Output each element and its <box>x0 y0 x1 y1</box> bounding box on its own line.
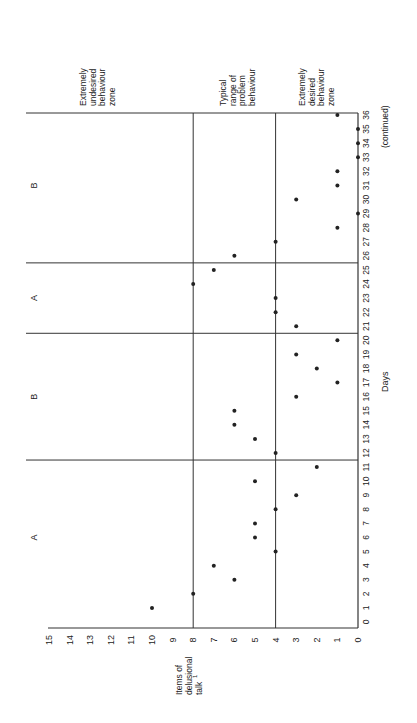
x-tick-label: 20 <box>361 335 371 345</box>
x-tick-label: 34 <box>361 138 371 148</box>
data-point <box>232 423 236 427</box>
delusional-talk-chart: 0123456789101112131415 01234567891011121… <box>0 0 417 723</box>
x-tick-label: 11 <box>361 462 371 471</box>
data-point <box>294 395 298 399</box>
x-tick-label: 31 <box>361 180 371 190</box>
y-axis-title-line1: Items of <box>174 664 184 695</box>
x-tick-label: 35 <box>361 124 371 134</box>
zone-label-undesired: Extremelyundesiredbehaviourzone <box>78 67 117 106</box>
y-tick-label: 3 <box>291 637 301 642</box>
y-axis-ticks: 0123456789101112131415 <box>44 635 363 645</box>
data-point <box>335 381 339 385</box>
data-point <box>315 367 319 371</box>
phase-boundary-lines <box>26 263 358 460</box>
zone-label-desired-line: desired <box>307 78 317 106</box>
data-point <box>253 521 257 525</box>
data-point <box>356 155 360 159</box>
data-point <box>356 212 360 216</box>
x-tick-label: 13 <box>361 434 371 444</box>
x-tick-label: 18 <box>361 364 371 374</box>
phase-label: B <box>29 394 39 400</box>
x-tick-label: 16 <box>361 392 371 402</box>
y-axis-title: Items of delusional talk 1 <box>174 657 204 695</box>
data-point <box>253 536 257 540</box>
x-tick-label: 0 <box>361 619 371 624</box>
x-tick-label: 17 <box>361 378 371 388</box>
data-point <box>335 338 339 342</box>
phase-label: A <box>29 534 39 540</box>
x-axis-title: Days <box>380 371 390 392</box>
data-point <box>356 127 360 131</box>
y-tick-label: 11 <box>126 635 136 644</box>
zone-label-desired-line: behaviour <box>316 68 326 106</box>
data-point <box>191 592 195 596</box>
continued-note: (continued) <box>380 105 390 148</box>
zone-label-typical-line: behaviour <box>247 68 257 106</box>
zone-label-typical-line: problem <box>237 75 247 106</box>
data-point <box>253 479 257 483</box>
data-point <box>335 113 339 117</box>
x-tick-label: 12 <box>361 448 371 458</box>
zone-label-undesired-line: Extremely <box>78 67 88 106</box>
phase-label: A <box>29 295 39 301</box>
x-tick-label: 6 <box>361 535 371 540</box>
data-point <box>232 578 236 582</box>
data-point <box>294 352 298 356</box>
data-point <box>315 465 319 469</box>
data-point <box>274 296 278 300</box>
data-point <box>274 240 278 244</box>
x-tick-label: 28 <box>361 223 371 233</box>
x-tick-label: 22 <box>361 307 371 317</box>
data-point <box>232 254 236 258</box>
y-tick-label: 1 <box>332 637 342 642</box>
data-point <box>335 183 339 187</box>
x-tick-label: 15 <box>361 406 371 416</box>
zone-label-undesired-line: undesired <box>88 68 98 106</box>
data-point <box>294 198 298 202</box>
y-tick-label: 5 <box>250 637 260 642</box>
zone-labels: ExtremelyundesiredbehaviourzoneTypicalra… <box>78 67 336 106</box>
data-point <box>253 437 257 441</box>
zone-label-undesired-line: zone <box>107 87 117 106</box>
zone-label-typical-line: Typical <box>218 79 228 106</box>
y-tick-label: 14 <box>65 635 75 645</box>
y-tick-label: 12 <box>106 635 116 645</box>
y-tick-label: 6 <box>229 637 239 642</box>
data-point <box>212 268 216 272</box>
data-point <box>232 409 236 413</box>
y-tick-label: 13 <box>85 635 95 645</box>
phase-label: B <box>29 182 39 188</box>
y-tick-label: 0 <box>353 637 363 642</box>
y-tick-label: 2 <box>312 637 322 642</box>
data-point <box>274 451 278 455</box>
x-tick-label: 1 <box>361 605 371 610</box>
x-tick-label: 9 <box>361 493 371 498</box>
data-point <box>335 226 339 230</box>
zone-label-typical: Typicalrange ofproblembehaviour <box>218 68 257 106</box>
x-tick-label: 21 <box>361 321 371 331</box>
x-tick-label: 33 <box>361 152 371 162</box>
data-point <box>294 493 298 497</box>
data-point <box>150 606 154 610</box>
y-tick-label: 10 <box>147 635 157 645</box>
x-tick-label: 27 <box>361 237 371 247</box>
zone-lines <box>193 113 275 628</box>
y-axis-title-line3: talk <box>194 681 204 695</box>
data-point <box>274 507 278 511</box>
x-tick-label: 19 <box>361 349 371 359</box>
y-tick-label: 4 <box>271 637 281 642</box>
x-tick-label: 3 <box>361 577 371 582</box>
x-tick-label: 23 <box>361 293 371 303</box>
x-tick-label: 5 <box>361 549 371 554</box>
x-tick-label: 8 <box>361 507 371 512</box>
x-tick-label: 4 <box>361 563 371 568</box>
y-tick-label: 15 <box>44 635 54 645</box>
x-tick-label: 30 <box>361 195 371 205</box>
zone-label-typical-line: range of <box>228 74 238 106</box>
x-tick-label: 2 <box>361 591 371 596</box>
zone-label-desired-line: Extremely <box>297 67 307 106</box>
data-point <box>335 169 339 173</box>
x-tick-label: 14 <box>361 420 371 430</box>
data-point <box>294 324 298 328</box>
data-point <box>356 141 360 145</box>
